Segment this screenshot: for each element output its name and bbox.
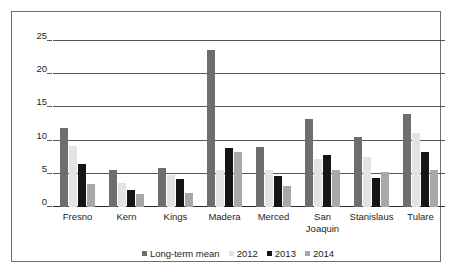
- bar: [225, 148, 233, 207]
- bar: [118, 183, 126, 207]
- x-axis-label: Madera: [200, 211, 249, 223]
- x-label-line: Stanislaus: [350, 211, 394, 222]
- y-tick-mark: [47, 106, 52, 107]
- legend-swatch-icon: [267, 251, 272, 256]
- y-tick-label: 25: [25, 31, 47, 41]
- legend-label: 2014: [313, 248, 334, 259]
- bar: [305, 119, 313, 207]
- bar-group: [249, 41, 298, 207]
- bar: [372, 178, 380, 207]
- y-tick-label: 0: [25, 197, 47, 207]
- x-axis-category-labels: FresnoKernKingsMaderaMercedSanJoaquinSta…: [53, 211, 445, 243]
- y-tick-mark: [47, 140, 52, 141]
- bar-group: [396, 41, 445, 207]
- bar: [274, 176, 282, 207]
- bar-group: [298, 41, 347, 207]
- bar: [430, 170, 438, 207]
- x-label-line: Fresno: [63, 211, 93, 222]
- bar-group: [200, 41, 249, 207]
- y-tick-mark: [47, 73, 52, 74]
- x-axis-label: Kern: [102, 211, 151, 223]
- bar: [167, 175, 175, 207]
- bar: [314, 159, 322, 207]
- x-label-line: Tulare: [407, 211, 434, 222]
- bar: [136, 194, 144, 207]
- legend-swatch-icon: [142, 251, 147, 256]
- bar: [256, 147, 264, 207]
- legend-item[interactable]: 2014: [305, 248, 334, 259]
- bar: [185, 193, 193, 207]
- y-tick: 0: [23, 197, 47, 207]
- bar: [69, 146, 77, 207]
- y-tick: 20: [23, 64, 47, 74]
- bar-group: [347, 41, 396, 207]
- x-label-line: San: [314, 211, 331, 222]
- plot-area: [53, 41, 445, 207]
- y-axis: 0510152025: [23, 41, 47, 207]
- chart-legend: Long-term mean201220132014: [23, 248, 453, 259]
- legend-label: Long-term mean: [150, 248, 220, 259]
- bar: [127, 190, 135, 207]
- x-axis-label: Stanislaus: [347, 211, 396, 223]
- x-label-line: Kings: [164, 211, 188, 222]
- bar: [323, 155, 331, 207]
- legend-swatch-icon: [229, 251, 234, 256]
- bar: [332, 170, 340, 207]
- bar: [87, 184, 95, 207]
- bar-group: [53, 41, 102, 207]
- legend-item[interactable]: Long-term mean: [142, 248, 220, 259]
- x-axis-label: Kings: [151, 211, 200, 223]
- bar: [109, 170, 117, 207]
- y-tick-label: 15: [25, 97, 47, 107]
- bar: [216, 170, 224, 207]
- chart-figure: 0510152025 FresnoKernKingsMaderaMercedSa…: [0, 0, 454, 275]
- legend-item[interactable]: 2013: [267, 248, 296, 259]
- legend-label: 2013: [275, 248, 296, 259]
- x-axis-label: Fresno: [53, 211, 102, 223]
- x-label-line: Merced: [258, 211, 290, 222]
- x-label-line: Joaquin: [306, 223, 339, 234]
- bar-group: [102, 41, 151, 207]
- bar: [265, 170, 273, 207]
- bar: [78, 164, 86, 207]
- bar: [412, 133, 420, 207]
- x-axis-label: Merced: [249, 211, 298, 223]
- bar: [234, 152, 242, 207]
- y-tick: 5: [23, 164, 47, 174]
- bar: [207, 50, 215, 207]
- bar: [354, 137, 362, 207]
- y-tick: 15: [23, 97, 47, 107]
- y-tick-label: 5: [25, 164, 47, 174]
- y-tick-mark: [47, 206, 52, 207]
- x-axis-label: Tulare: [396, 211, 445, 223]
- bar: [403, 114, 411, 207]
- y-tick: 10: [23, 131, 47, 141]
- y-tick-mark: [47, 173, 52, 174]
- y-tick: 25: [23, 31, 47, 41]
- y-tick-label: 20: [25, 64, 47, 74]
- bar: [158, 168, 166, 207]
- chart-frame: 0510152025 FresnoKernKingsMaderaMercedSa…: [11, 11, 441, 262]
- bar: [381, 172, 389, 207]
- x-label-line: Kern: [116, 211, 136, 222]
- bar: [363, 157, 371, 207]
- bar: [60, 128, 68, 207]
- legend-label: 2012: [237, 248, 258, 259]
- bar: [421, 152, 429, 207]
- y-tick-label: 10: [25, 131, 47, 141]
- y-tick-mark: [47, 40, 52, 41]
- legend-item[interactable]: 2012: [229, 248, 258, 259]
- bar: [176, 179, 184, 207]
- bar-group: [151, 41, 200, 207]
- x-axis-label: SanJoaquin: [298, 211, 347, 234]
- bar: [283, 186, 291, 207]
- legend-swatch-icon: [305, 251, 310, 256]
- x-label-line: Madera: [208, 211, 240, 222]
